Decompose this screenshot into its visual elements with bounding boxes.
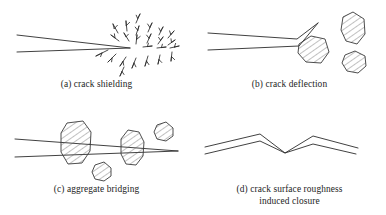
microcrack-arrow bbox=[170, 43, 179, 48]
microcrack-arrow bbox=[135, 26, 139, 35]
microcrack-arrow bbox=[96, 50, 108, 57]
microcrack-arrow bbox=[136, 14, 140, 23]
roughness-closure-diagram bbox=[193, 108, 386, 190]
bridging-aggregate-right bbox=[121, 130, 144, 165]
zigzag-crack-lower-face bbox=[205, 141, 356, 154]
microcrack-arrow bbox=[111, 34, 119, 41]
microcrack-arrow-field bbox=[96, 14, 179, 76]
aggregate-lower-right bbox=[342, 51, 366, 73]
panel-crack-shielding: (a) crack shielding bbox=[0, 0, 193, 107]
microcrack-arrow bbox=[159, 27, 163, 35]
microcrack-arrow bbox=[108, 54, 116, 62]
microcrack-arrow bbox=[158, 55, 162, 64]
microcrack-arrow bbox=[113, 24, 118, 33]
panel-roughness-induced-closure: (d) crack surface roughness induced clos… bbox=[193, 108, 386, 215]
caption-panel-d: (d) crack surface roughness induced clos… bbox=[193, 184, 386, 207]
panel-aggregate-bridging: (c) aggregate bridging bbox=[0, 108, 193, 215]
caption-line: (d) crack surface roughness bbox=[193, 184, 386, 196]
figure-root: (a) crack shielding bbox=[0, 0, 386, 215]
caption-line: induced closure bbox=[193, 196, 386, 208]
microcrack-arrow bbox=[171, 52, 175, 61]
crack-deflection-diagram bbox=[193, 0, 386, 82]
microcrack-arrow bbox=[126, 21, 130, 31]
caption-panel-c: (c) aggregate bridging bbox=[0, 184, 193, 196]
caption-panel-b: (b) crack deflection bbox=[193, 79, 386, 91]
caption-line: (a) crack shielding bbox=[0, 79, 193, 91]
aggregate-small-upper-right bbox=[154, 122, 173, 141]
microcrack-arrow bbox=[148, 23, 152, 32]
microcrack-arrow bbox=[147, 34, 151, 43]
microcrack-arrow bbox=[158, 37, 163, 44]
crack-upper-face bbox=[208, 23, 318, 39]
aggregate-upper-right bbox=[341, 12, 365, 44]
microcrack-arrow bbox=[120, 67, 124, 76]
aggregate-large bbox=[298, 36, 329, 63]
aggregate-small-lower-middle bbox=[92, 162, 111, 181]
microcrack-arrow bbox=[136, 35, 140, 44]
microcrack-arrow bbox=[143, 43, 152, 47]
caption-line: (b) crack deflection bbox=[193, 79, 386, 91]
microcrack-arrow bbox=[124, 33, 129, 41]
crack-upper-face bbox=[15, 139, 178, 151]
crack-lower-face bbox=[17, 48, 130, 52]
aggregate-bridging-diagram bbox=[0, 108, 193, 190]
microcrack-arrow bbox=[132, 58, 136, 68]
crack-shielding-diagram bbox=[0, 0, 193, 82]
microcrack-arrow bbox=[145, 56, 149, 66]
microcrack-arrow bbox=[168, 31, 174, 38]
microcrack-arrow bbox=[120, 57, 126, 66]
caption-line: (c) aggregate bridging bbox=[0, 184, 193, 196]
microcrack-arrow bbox=[157, 44, 166, 48]
panel-crack-deflection: (b) crack deflection bbox=[193, 0, 386, 107]
bridging-aggregate-left bbox=[61, 121, 91, 164]
crack-lower-face bbox=[15, 151, 178, 157]
zigzag-crack-upper-face bbox=[205, 134, 358, 153]
caption-panel-a: (a) crack shielding bbox=[0, 79, 193, 91]
microcrack-arrow bbox=[168, 39, 175, 45]
